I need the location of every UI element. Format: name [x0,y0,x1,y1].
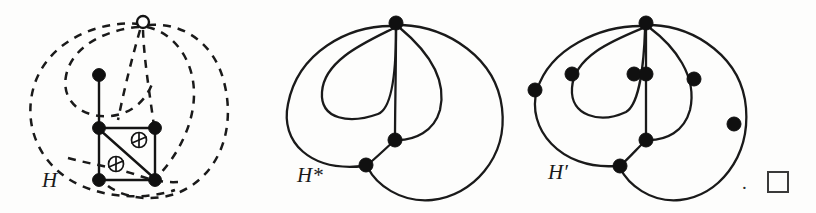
graph-label-hprime: H′ [548,160,568,185]
vertex-hstar-top[interactable] [389,16,403,30]
h-crossing-upper [132,133,147,148]
hprime-edge-outer-right [620,25,746,200]
vertex-hprime-lower-left[interactable] [613,159,627,173]
vertex-h-apex[interactable] [137,16,149,28]
h-dashed-edge-apex-vertical [143,30,154,126]
graph-h-drawing [0,0,272,213]
vertex-hprime-center[interactable] [639,67,653,81]
h-dashed-edge-inner-left [65,27,152,116]
h-crossing-lower [109,157,124,172]
hprime-edge-outer-left [535,26,641,166]
vertex-hprime-far-right[interactable] [727,117,741,131]
vertex-h-square-bottom-right[interactable] [149,174,162,187]
vertex-hprime-inner-left[interactable] [565,67,579,81]
vertex-hprime-far-left[interactable] [528,83,542,97]
vertex-h-square-bottom-left[interactable] [93,174,106,187]
hstar-edge-vertical [395,30,396,138]
sentence-period: . [742,172,747,194]
hstar-edge-outer-left [287,26,391,167]
vertex-hprime-center-right[interactable] [687,72,701,86]
vertex-h-square-top-left[interactable] [93,122,106,135]
graph-label-hstar: H* [297,163,323,188]
hstar-edge-outer-right [368,25,503,200]
vertex-hstar-middle[interactable] [388,133,402,147]
h-dashed-edge-apex-left-stub [118,30,140,120]
hstar-edge-right-inner [398,28,442,140]
h-solid-edges [99,75,155,180]
graph-label-h: H [42,168,57,193]
figure-container: H H* H′ . [0,0,816,213]
panel-graph-h [0,0,272,213]
hprime-edge-right-inner [649,28,692,140]
vertex-hprime-middle[interactable] [639,133,653,147]
vertex-hprime-top[interactable] [639,16,653,30]
end-of-proof-square-icon [767,171,789,193]
vertex-h-square-top-right[interactable] [149,122,162,135]
vertex-hstar-lower-left[interactable] [359,158,373,172]
vertex-h-upper-left[interactable] [93,69,106,82]
